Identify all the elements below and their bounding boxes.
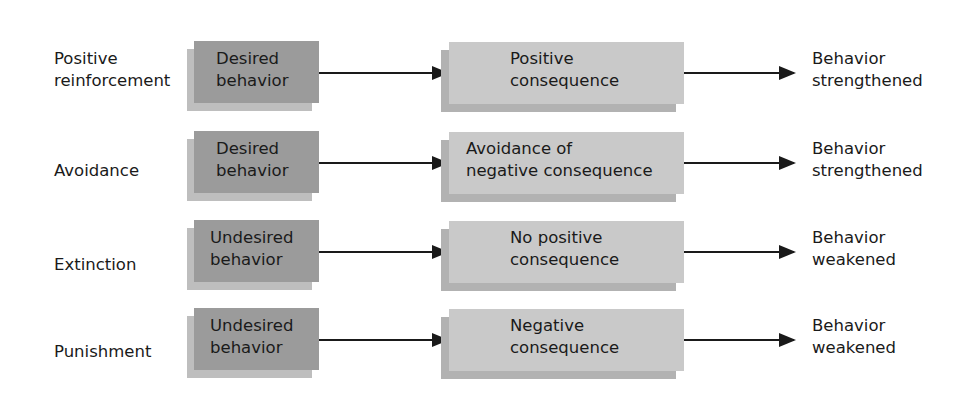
label-line: Extinction (54, 254, 136, 276)
result-line: Behavior (812, 48, 923, 70)
result-label: Behavior weakened (812, 227, 896, 271)
arrow-right-icon (684, 339, 794, 341)
label-line: reinforcement (54, 70, 170, 92)
box-line: Positive (510, 48, 684, 70)
box-line: Desired (216, 48, 319, 70)
box-line: Undesired (210, 315, 319, 337)
result-line: Behavior (812, 138, 923, 160)
result-line: weakened (812, 249, 896, 271)
result-line: Behavior (812, 315, 896, 337)
consequence-box: Negative consequence (449, 309, 684, 371)
result-label: Behavior strengthened (812, 48, 923, 92)
consequence-box: No positive consequence (449, 221, 684, 283)
result-line: Behavior (812, 227, 896, 249)
result-line: strengthened (812, 70, 923, 92)
row-type-label: Extinction (54, 254, 136, 276)
row-positive-reinforcement: Positive reinforcement Desired behavior … (0, 41, 976, 111)
box-line: consequence (510, 70, 684, 92)
result-line: strengthened (812, 160, 923, 182)
result-line: weakened (812, 337, 896, 359)
row-extinction: Extinction Undesired behavior No positiv… (0, 220, 976, 290)
behavior-box: Undesired behavior (194, 220, 319, 282)
behavior-box: Desired behavior (194, 131, 319, 193)
behavior-box: Undesired behavior (194, 308, 319, 370)
row-type-label: Punishment (54, 341, 151, 363)
result-label: Behavior weakened (812, 315, 896, 359)
behavior-box: Desired behavior (194, 41, 319, 103)
row-avoidance: Avoidance Desired behavior Avoidance of … (0, 131, 976, 201)
row-punishment: Punishment Undesired behavior Negative c… (0, 308, 976, 378)
box-line: consequence (510, 337, 684, 359)
label-line: Positive (54, 48, 170, 70)
box-line: behavior (210, 337, 319, 359)
box-line: Undesired (210, 227, 319, 249)
box-line: Negative (510, 315, 684, 337)
box-line: consequence (510, 249, 684, 271)
box-line: Desired (216, 138, 319, 160)
arrow-right-icon (684, 251, 794, 253)
arrow-right-icon (319, 162, 447, 164)
row-type-label: Avoidance (54, 160, 139, 182)
box-line: No positive (510, 227, 684, 249)
box-line: behavior (216, 160, 319, 182)
arrow-right-icon (684, 162, 794, 164)
consequence-box: Positive consequence (449, 42, 684, 104)
label-line: Avoidance (54, 160, 139, 182)
arrow-right-icon (319, 339, 447, 341)
box-line: behavior (210, 249, 319, 271)
label-line: Punishment (54, 341, 151, 363)
arrow-right-icon (684, 72, 794, 74)
result-label: Behavior strengthened (812, 138, 923, 182)
box-line: behavior (216, 70, 319, 92)
row-type-label: Positive reinforcement (54, 48, 170, 92)
box-line: Avoidance of (466, 138, 684, 160)
box-line: negative consequence (466, 160, 684, 182)
arrow-right-icon (319, 72, 447, 74)
consequence-box: Avoidance of negative consequence (449, 132, 684, 194)
arrow-right-icon (319, 251, 447, 253)
